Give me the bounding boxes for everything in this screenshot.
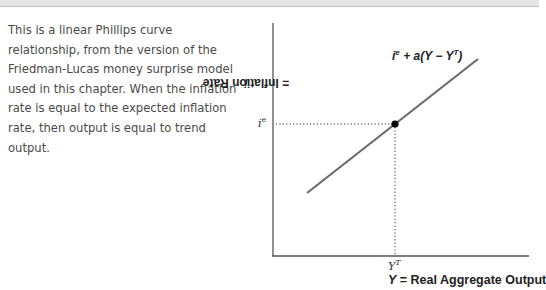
equilibrium-point [391, 120, 398, 127]
x-tick-trend-output: YT [388, 258, 401, 273]
x-axis-label: Y = Real Aggregate Output [388, 273, 546, 287]
y-axis-label: i = Inflation Rate [236, 23, 256, 143]
curve-equation-label: ie + a(Y − YT) [392, 48, 462, 63]
y-tick-expected-inflation: ie [258, 115, 266, 130]
